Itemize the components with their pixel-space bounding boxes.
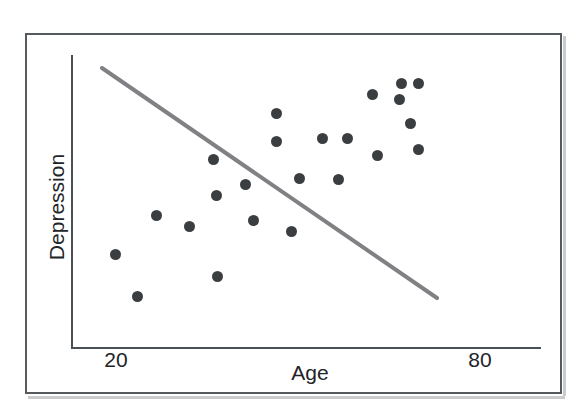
x-tick-label-20: 20 bbox=[88, 348, 144, 372]
data-point bbox=[184, 221, 195, 232]
x-tick-label-80: 80 bbox=[452, 348, 508, 372]
y-axis-line bbox=[71, 55, 73, 349]
data-point bbox=[212, 271, 223, 282]
data-point bbox=[405, 118, 416, 129]
data-point bbox=[271, 136, 282, 147]
figure-page: Depression Age 20 80 bbox=[0, 0, 586, 419]
data-point bbox=[248, 215, 259, 226]
data-point bbox=[110, 249, 121, 260]
data-point bbox=[132, 291, 143, 302]
regression-line bbox=[102, 68, 437, 298]
data-point bbox=[367, 89, 378, 100]
data-point bbox=[342, 133, 353, 144]
data-point bbox=[294, 173, 305, 184]
data-point bbox=[240, 179, 251, 190]
data-point bbox=[333, 174, 344, 185]
data-point bbox=[286, 226, 297, 237]
y-axis-title: Depression bbox=[45, 132, 69, 282]
x-axis-title: Age bbox=[230, 361, 390, 385]
data-point bbox=[208, 154, 219, 165]
data-point bbox=[372, 150, 383, 161]
data-point bbox=[413, 144, 424, 155]
data-point bbox=[396, 78, 407, 89]
scatter-plot: Depression Age 20 80 bbox=[0, 0, 586, 419]
data-point bbox=[413, 78, 424, 89]
data-point bbox=[317, 133, 328, 144]
data-point bbox=[151, 210, 162, 221]
data-point bbox=[211, 190, 222, 201]
data-point bbox=[394, 94, 405, 105]
data-point bbox=[271, 108, 282, 119]
